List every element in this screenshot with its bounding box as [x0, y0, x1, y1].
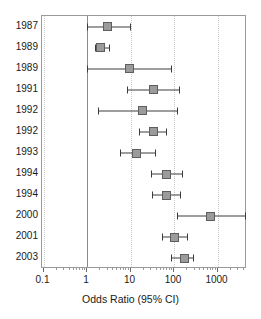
y-axis-label-1987: 1987 — [0, 21, 38, 31]
x-axis-title: Odds Ratio (95% CI) — [0, 293, 261, 305]
x-tick-minor — [203, 268, 204, 270]
x-tick-minor — [69, 268, 70, 270]
forest-row — [42, 164, 245, 185]
y-axis-label-1992: 1992 — [0, 105, 38, 115]
x-tick-minor — [112, 268, 113, 270]
ci-cap-low — [171, 255, 172, 262]
forest-row — [42, 79, 245, 100]
x-tick-minor — [107, 268, 108, 270]
x-tick-minor — [116, 268, 117, 270]
x-tick-minor — [123, 268, 124, 270]
forest-row — [42, 227, 245, 248]
x-tick-minor — [166, 268, 167, 270]
x-tick-minor — [230, 268, 231, 270]
x-tick-minor — [171, 268, 172, 270]
forest-row — [42, 58, 245, 79]
x-tick-minor — [212, 268, 213, 270]
odds-ratio-marker — [125, 64, 134, 73]
y-axis-label-1992: 1992 — [0, 126, 38, 136]
odds-ratio-marker — [96, 43, 105, 52]
x-tick-minor — [125, 268, 126, 270]
ci-cap-low — [177, 213, 178, 220]
x-tick-label-100: 100 — [148, 274, 198, 285]
x-tick-minor — [150, 268, 151, 270]
x-tick-minor — [186, 268, 187, 270]
ci-cap-low — [98, 107, 99, 114]
x-tick-1 — [86, 268, 87, 272]
ci-cap-low — [120, 150, 121, 157]
odds-ratio-marker — [149, 85, 158, 94]
x-tick-minor — [163, 268, 164, 270]
odds-ratio-marker — [138, 106, 147, 115]
x-tick-minor — [76, 268, 77, 270]
odds-ratio-marker — [132, 149, 141, 158]
x-tick-minor — [194, 268, 195, 270]
ci-cap-low — [162, 234, 163, 241]
x-tick-minor — [160, 268, 161, 270]
y-axis-label-2003: 2003 — [0, 252, 38, 262]
x-tick-minor — [56, 268, 57, 270]
x-tick-minor — [128, 268, 129, 270]
odds-ratio-marker — [162, 170, 171, 179]
ci-cap-high — [166, 128, 167, 135]
odds-ratio-marker — [162, 191, 171, 200]
x-tick-10 — [130, 268, 131, 272]
x-tick-minor — [79, 268, 80, 270]
x-tick-minor — [215, 268, 216, 270]
odds-ratio-marker — [149, 127, 158, 136]
forest-row — [42, 206, 245, 227]
x-tick-minor — [84, 268, 85, 270]
forest-row — [42, 100, 245, 121]
x-tick-minor — [63, 268, 64, 270]
forest-plot: 1987198919891991199219921993199419942000… — [0, 0, 261, 319]
plot-area — [41, 15, 246, 268]
y-axis-label-1994: 1994 — [0, 189, 38, 199]
y-axis-label-1989: 1989 — [0, 63, 38, 73]
ci-cap-low — [151, 171, 152, 178]
ci-cap-high — [187, 234, 188, 241]
x-tick-minor — [99, 268, 100, 270]
x-tick-label-1: 1 — [61, 274, 111, 285]
y-axis-label-2001: 2001 — [0, 231, 38, 241]
x-tick-minor — [237, 268, 238, 270]
forest-row — [42, 143, 245, 164]
x-tick-minor — [199, 268, 200, 270]
forest-row — [42, 37, 245, 58]
ci-cap-low — [152, 192, 153, 199]
odds-ratio-marker — [170, 233, 179, 242]
ci-cap-high — [177, 107, 178, 114]
x-tick-1000 — [217, 268, 218, 272]
x-tick-minor — [82, 268, 83, 270]
x-tick-minor — [207, 268, 208, 270]
x-tick-label-1000: 1000 — [192, 274, 242, 285]
x-tick-minor — [210, 268, 211, 270]
ci-cap-high — [245, 213, 246, 220]
odds-ratio-marker — [103, 22, 112, 31]
x-tick-minor — [73, 268, 74, 270]
forest-row — [42, 185, 245, 206]
ci-cap-low — [127, 86, 128, 93]
ci-cap-high — [171, 65, 172, 72]
x-tick-0.1 — [43, 268, 44, 272]
x-tick-minor — [156, 268, 157, 270]
ci-cap-high — [155, 150, 156, 157]
ci-cap-high — [109, 44, 110, 51]
ci-cap-low — [87, 23, 88, 30]
odds-ratio-marker — [206, 212, 215, 221]
ci-cap-high — [193, 255, 194, 262]
ci-cap-low — [139, 128, 140, 135]
y-axis-label-1989: 1989 — [0, 42, 38, 52]
x-tick-label-10: 10 — [105, 274, 155, 285]
x-tick-100 — [173, 268, 174, 272]
forest-row — [42, 16, 245, 37]
ci-cap-high — [180, 192, 181, 199]
forest-row — [42, 248, 245, 269]
x-tick-minor — [120, 268, 121, 270]
ci-cap-high — [130, 23, 131, 30]
odds-ratio-marker — [180, 254, 189, 263]
y-axis-label-1994: 1994 — [0, 168, 38, 178]
forest-row — [42, 121, 245, 142]
y-axis-label-1993: 1993 — [0, 147, 38, 157]
x-tick-minor — [243, 268, 244, 270]
x-tick-label-0.1: 0.1 — [18, 274, 68, 285]
